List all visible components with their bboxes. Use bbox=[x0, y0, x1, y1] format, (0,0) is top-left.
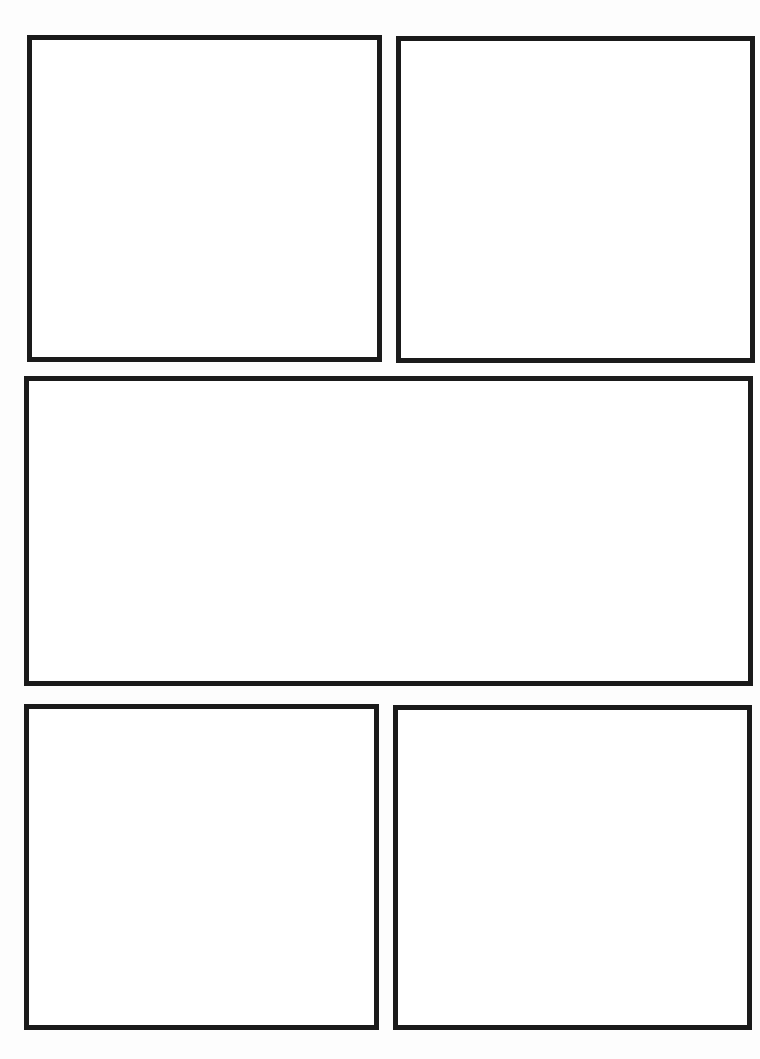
comic-page bbox=[0, 0, 760, 1059]
panel-bottom-right[interactable] bbox=[393, 705, 752, 1030]
panel-bottom-left[interactable] bbox=[24, 704, 379, 1030]
panel-middle-wide[interactable] bbox=[24, 376, 753, 686]
panel-top-right[interactable] bbox=[396, 36, 755, 363]
panel-top-left[interactable] bbox=[27, 35, 382, 362]
